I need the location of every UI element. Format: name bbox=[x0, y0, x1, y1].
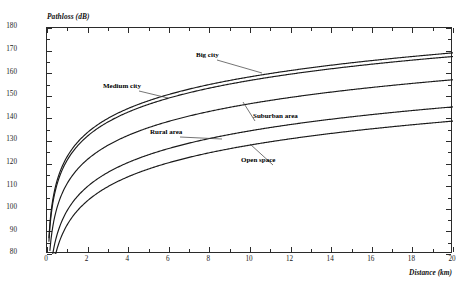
annotation-rural-area: Rural area bbox=[150, 129, 182, 136]
y-tick-label: 150 bbox=[0, 91, 17, 98]
y-axis-title: Pathloss (dB) bbox=[47, 12, 90, 21]
x-tick bbox=[453, 247, 454, 252]
annotation-big-city: Big city bbox=[196, 52, 219, 59]
x-tick bbox=[453, 28, 454, 33]
x-tick-label: 0 bbox=[26, 256, 66, 263]
y-tick bbox=[47, 254, 52, 255]
plot-area bbox=[46, 27, 452, 253]
curve-open-space bbox=[55, 121, 453, 254]
x-tick-label: 2 bbox=[67, 256, 107, 263]
x-tick-label: 16 bbox=[351, 256, 391, 263]
y-tick-label: 80 bbox=[0, 249, 17, 256]
y-tick-label: 120 bbox=[0, 159, 17, 166]
annotation-open-space: Open space bbox=[241, 157, 275, 164]
curve-suburban-area bbox=[50, 80, 453, 251]
y-tick-label: 170 bbox=[0, 46, 17, 53]
y-tick-label: 90 bbox=[0, 227, 17, 234]
x-tick-label: 20 bbox=[432, 256, 472, 263]
x-tick-label: 18 bbox=[391, 256, 431, 263]
x-tick-label: 4 bbox=[107, 256, 147, 263]
x-tick-label: 10 bbox=[229, 256, 269, 263]
annotation-medium-city: Medium city bbox=[103, 83, 141, 90]
y-tick-label: 100 bbox=[0, 204, 17, 211]
y-tick-label: 180 bbox=[0, 23, 17, 30]
y-tick-label: 140 bbox=[0, 114, 17, 121]
y-tick bbox=[446, 254, 451, 255]
y-tick-label: 160 bbox=[0, 69, 17, 76]
x-tick-label: 8 bbox=[188, 256, 228, 263]
y-tick-label: 110 bbox=[0, 182, 17, 189]
chart-figure: Pathloss (dB) Distance (km) 809010011012… bbox=[0, 0, 475, 288]
x-tick-label: 14 bbox=[310, 256, 350, 263]
y-tick-label: 130 bbox=[0, 136, 17, 143]
x-tick-label: 12 bbox=[270, 256, 310, 263]
x-axis-title: Distance (km) bbox=[409, 268, 452, 277]
annotation-suburban-area: Suburban area bbox=[253, 113, 298, 120]
curve-rural-area bbox=[53, 107, 453, 254]
curves-layer bbox=[47, 28, 453, 254]
x-tick-label: 6 bbox=[148, 256, 188, 263]
